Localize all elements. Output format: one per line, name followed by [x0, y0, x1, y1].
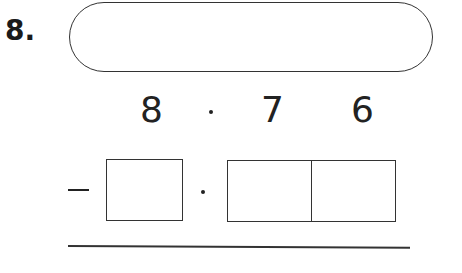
question-number: 8. — [5, 14, 35, 47]
minuend-hundredths-digit: 6 — [351, 88, 374, 132]
minus-sign-icon — [68, 189, 89, 191]
minuend-ones-digit: 8 — [140, 88, 163, 132]
minuend-decimal-point — [209, 110, 213, 114]
subtrahend-tenths-box[interactable] — [227, 160, 313, 222]
minuend-tenths-digit: 7 — [261, 88, 284, 132]
answer-rule-line — [68, 245, 410, 248]
subtrahend-ones-box[interactable] — [106, 159, 183, 221]
subtrahend-hundredths-box[interactable] — [311, 160, 396, 222]
answer-pill-field[interactable] — [69, 2, 433, 72]
subtrahend-decimal-point — [201, 190, 205, 194]
